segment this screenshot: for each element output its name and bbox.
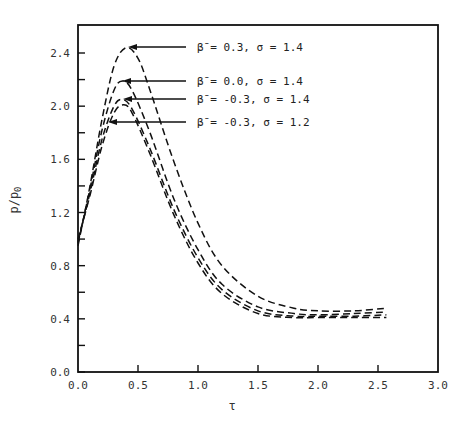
- y-tick-label: 1.6: [50, 153, 70, 166]
- y-tick-label: 1.2: [50, 207, 70, 220]
- data-series: [78, 47, 386, 317]
- x-tick-label: 2.0: [308, 379, 328, 392]
- series-line: [78, 105, 386, 318]
- x-axis-label: τ: [228, 399, 235, 413]
- y-tick-label: 2.0: [50, 100, 70, 113]
- y-axis-label-subscript: 0: [13, 186, 23, 191]
- legend-annotations: β̄ = 0.3, σ = 1.4β̄ = 0.0, σ = 1.4β̄ = -…: [108, 41, 310, 129]
- arrow-head-icon: [128, 44, 137, 50]
- legend-label: β̄ = -0.3, σ = 1.4: [197, 93, 310, 106]
- svg-text:p/p0: p/p0: [7, 186, 23, 213]
- y-tick-label: 2.4: [50, 47, 70, 60]
- arrow-head-icon: [122, 78, 131, 84]
- x-tick-label: 1.5: [248, 379, 268, 392]
- series-line: [78, 99, 386, 316]
- legend-label: β̄ = -0.3, σ = 1.2: [197, 116, 310, 129]
- arrow-head-icon: [108, 119, 117, 125]
- y-tick-label: 0.8: [50, 260, 70, 273]
- x-tick-label: 1.0: [188, 379, 208, 392]
- x-tick-label: 0.5: [128, 379, 148, 392]
- legend-label: β̄ = 0.0, σ = 1.4: [197, 75, 303, 88]
- y-tick-label: 0.0: [50, 366, 70, 379]
- x-tick-label: 3.0: [428, 379, 448, 392]
- x-tick-label: 2.5: [368, 379, 388, 392]
- y-axis-ticks: 0.00.40.81.21.62.02.4: [50, 47, 85, 379]
- legend-label: β̄ = 0.3, σ = 1.4: [197, 41, 303, 54]
- y-axis-label: p/p0: [7, 186, 23, 213]
- line-chart: 0.00.40.81.21.62.02.4 0.00.51.01.52.02.5…: [0, 0, 468, 433]
- y-tick-label: 0.4: [50, 313, 70, 326]
- x-axis-ticks: 0.00.51.01.52.02.53.0: [68, 365, 448, 392]
- arrow-head-icon: [123, 96, 132, 102]
- y-axis-label-main: p/p: [7, 192, 21, 214]
- x-tick-label: 0.0: [68, 379, 88, 392]
